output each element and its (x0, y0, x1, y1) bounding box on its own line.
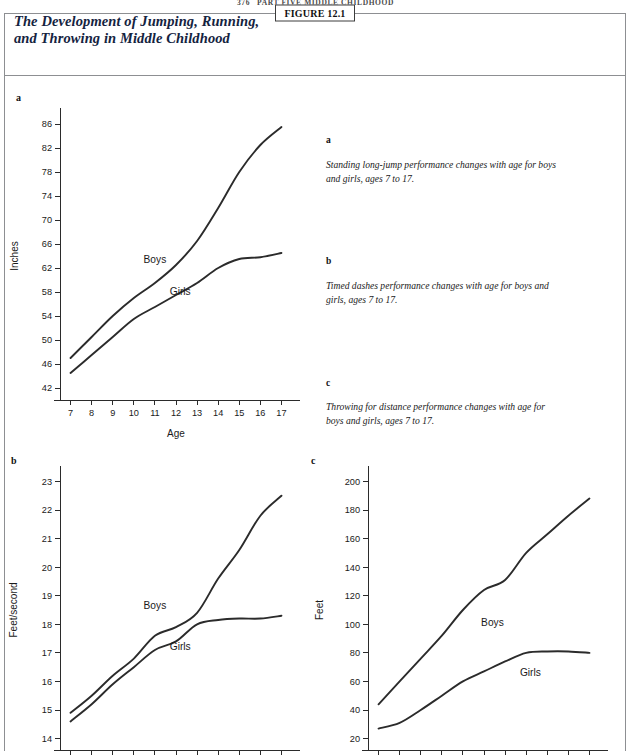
x-tick-label: 15 (234, 408, 244, 418)
caption-letter-b: b (326, 256, 331, 266)
y-tick-label: 100 (345, 620, 360, 630)
y-axis-title: Feet (314, 600, 325, 620)
caption-letter-a: a (326, 135, 331, 145)
y-tick-label: 160 (345, 534, 360, 544)
y-tick-label: 62 (42, 263, 52, 273)
y-tick-label: 46 (42, 359, 52, 369)
y-tick-label: 140 (345, 563, 360, 573)
caption-text-a: Standing long-jump performance changes w… (326, 158, 561, 185)
x-tick-label: 13 (192, 408, 202, 418)
x-tick-label: 16 (255, 408, 265, 418)
series-label-boys: Boys (144, 600, 167, 611)
series-line-girls (71, 616, 282, 722)
x-tick-label: 10 (129, 408, 139, 418)
y-tick-label: 40 (350, 705, 360, 715)
x-tick-label: 8 (89, 408, 94, 418)
y-tick-label: 19 (42, 591, 52, 601)
caption-letter-c: c (326, 378, 330, 388)
y-tick-label: 50 (42, 335, 52, 345)
series-line-boys (71, 127, 282, 358)
series-label-boys: Boys (144, 254, 167, 265)
y-tick-label: 180 (345, 505, 360, 515)
chart-timed-dashes: 14151617181920212223Feet/secondBoysGirls (0, 462, 310, 756)
y-tick-label: 86 (42, 119, 52, 129)
chart-standing-long-jump: 4246505458626670747882867891011121314151… (0, 100, 310, 440)
y-tick-label: 15 (42, 705, 52, 715)
y-tick-label: 80 (350, 648, 360, 658)
x-tick-label: 14 (213, 408, 223, 418)
x-tick-label: 11 (150, 408, 160, 418)
caption-text-b: Timed dashes performance changes with ag… (326, 279, 561, 306)
y-tick-label: 20 (42, 563, 52, 573)
series-label-boys: Boys (481, 617, 504, 628)
y-tick-label: 42 (42, 383, 52, 393)
x-tick-label: 12 (171, 408, 181, 418)
series-label-girls: Girls (520, 667, 541, 678)
x-tick-label: 17 (276, 408, 286, 418)
series-line-boys (379, 499, 590, 705)
y-tick-label: 82 (42, 143, 52, 153)
y-tick-label: 200 (345, 477, 360, 487)
y-tick-label: 16 (42, 677, 52, 687)
y-tick-label: 60 (350, 677, 360, 687)
page-number: 376 (237, 0, 250, 7)
y-tick-label: 23 (42, 477, 52, 487)
y-tick-label: 18 (42, 620, 52, 630)
y-tick-label: 21 (42, 534, 52, 544)
y-tick-label: 58 (42, 287, 52, 297)
chart-throwing-distance: 20406080100120140160180200FeetBoysGirls (300, 462, 620, 756)
series-label-girls: Girls (170, 641, 191, 652)
figure-title: The Development of Jumping, Running, and… (14, 13, 259, 47)
series-line-boys (71, 496, 282, 713)
y-tick-label: 120 (345, 591, 360, 601)
y-axis-title: Feet/second (8, 582, 19, 637)
series-label-girls: Girls (170, 286, 191, 297)
x-axis-title: Age (167, 428, 185, 439)
y-tick-label: 70 (42, 215, 52, 225)
series-line-girls (71, 253, 282, 373)
y-axis-title: Inches (9, 241, 20, 270)
y-tick-label: 78 (42, 167, 52, 177)
series-line-girls (379, 651, 590, 728)
y-tick-label: 22 (42, 505, 52, 515)
y-tick-label: 66 (42, 239, 52, 249)
x-tick-label: 7 (68, 408, 73, 418)
y-tick-label: 20 (350, 734, 360, 744)
x-tick-label: 9 (110, 408, 115, 418)
figure-number-badge: FIGURE 12.1 (275, 5, 355, 22)
y-tick-label: 14 (42, 734, 52, 744)
y-tick-label: 54 (42, 311, 52, 321)
y-tick-label: 17 (42, 648, 52, 658)
y-tick-label: 74 (42, 191, 52, 201)
caption-text-c: Throwing for distance performance change… (326, 400, 561, 427)
